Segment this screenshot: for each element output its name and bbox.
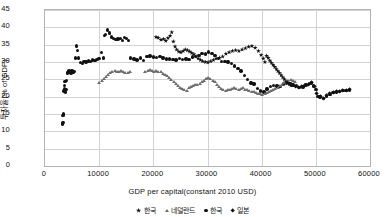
x-tick-label: 10000: [76, 169, 120, 178]
star-icon: [136, 208, 142, 214]
circle-icon: [204, 209, 207, 212]
data-point: [331, 90, 336, 95]
legend-item-label: 한국: [210, 207, 222, 214]
diamond-icon: [231, 208, 236, 213]
x-tick-label: 60000: [347, 169, 385, 178]
data-point: [347, 88, 352, 93]
y-tick-label: 15: [0, 109, 10, 117]
plot-area: [44, 9, 371, 167]
data-point: [309, 81, 314, 86]
legend-item[interactable]: 한국: [204, 207, 222, 214]
legend-item-label: 일본: [237, 207, 249, 214]
data-point: [296, 85, 301, 90]
data-point: [299, 85, 304, 90]
x-tick-label: 20000: [130, 169, 174, 178]
y-tick-label: 25: [0, 74, 10, 82]
y-tick-label: 20: [0, 92, 10, 100]
chart-root: 투자율(% of GDP) 051015202530354045 0100002…: [0, 0, 385, 217]
x-tick-label: 0: [22, 169, 66, 178]
data-point: [324, 93, 329, 98]
data-point: [303, 83, 308, 88]
data-point: [290, 83, 295, 88]
legend-item-label: 네덜란드: [171, 207, 195, 214]
y-tick-label: 30: [0, 57, 10, 65]
data-point: [315, 91, 320, 96]
y-tick-label: 40: [0, 22, 10, 30]
y-tick-label: 45: [0, 5, 10, 13]
legend-item[interactable]: 한국: [136, 207, 156, 214]
chart-legend: 한국네덜란드한국일본: [0, 207, 385, 214]
data-point: [334, 89, 339, 94]
y-tick-label: 5: [0, 144, 10, 152]
x-tick-label: 30000: [185, 169, 229, 178]
data-point: [344, 88, 349, 93]
data-point: [328, 91, 333, 96]
x-tick-label: 40000: [239, 169, 283, 178]
data-point: [312, 84, 317, 89]
data-point: [337, 89, 342, 94]
x-tick-label: 50000: [293, 169, 337, 178]
data-point: [293, 84, 298, 89]
legend-item[interactable]: 네덜란드: [165, 207, 196, 214]
legend-item[interactable]: 일본: [231, 207, 249, 214]
data-point: [318, 95, 323, 100]
legend-item-label: 한국: [144, 207, 156, 214]
y-tick-label: 0: [0, 161, 10, 169]
data-point: [321, 96, 326, 101]
y-tick-label: 10: [0, 126, 10, 134]
data-point: [341, 89, 346, 94]
y-tick-label: 35: [0, 40, 10, 48]
triangle-icon: [165, 209, 169, 212]
x-axis-title: GDP per capital(constant 2010 USD): [0, 187, 385, 196]
series-diamond: [45, 10, 370, 166]
data-point: [306, 82, 311, 87]
